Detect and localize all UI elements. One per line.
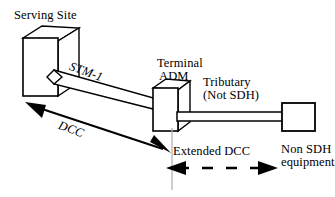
terminal-adm-label: TerminalADM xyxy=(157,57,203,83)
tributary-label-line2: (Not SDH) xyxy=(203,89,259,102)
dcc-arrowhead-left xyxy=(25,102,46,118)
tributary-bar xyxy=(177,112,283,121)
extended-dcc-arrow xyxy=(166,161,278,175)
dcc-arrowhead-right xyxy=(150,135,171,153)
extended-dcc-arrowhead-right xyxy=(258,161,278,175)
non-sdh-equipment-box xyxy=(282,103,315,131)
extended-dcc-arrowhead-left xyxy=(166,161,186,175)
non-sdh-equipment-label: Non SDHequipment xyxy=(281,143,335,169)
terminal-adm-side-face xyxy=(178,81,190,131)
serving-site-front-face xyxy=(23,38,58,96)
extended-dcc-label: Extended DCC xyxy=(173,145,250,158)
serving-site-label: Serving Site xyxy=(14,9,77,22)
tributary-label-line1: Tributary xyxy=(203,75,251,89)
tributary-label: Tributary(Not SDH) xyxy=(203,76,259,102)
terminal-adm-label-line1: Terminal xyxy=(157,56,203,70)
non-sdh-equipment-label-line2: equipment xyxy=(281,156,335,169)
dcc-arrow-line xyxy=(33,106,163,149)
dcc-arrow xyxy=(25,102,171,153)
terminal-adm-front-face xyxy=(153,88,178,131)
terminal-adm-label-line2: ADM xyxy=(159,70,203,83)
non-sdh-equipment-label-line1: Non SDH xyxy=(281,142,331,156)
tributary-bar-body xyxy=(177,112,283,121)
stm1-band-body xyxy=(54,70,157,110)
terminal-adm-cube xyxy=(153,79,190,131)
